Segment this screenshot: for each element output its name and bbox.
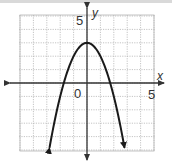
coordinate-plane: 0 5 5 x y	[0, 0, 172, 164]
x-max-label: 5	[148, 87, 155, 102]
x-axis-label: x	[156, 69, 164, 83]
y-max-label: 5	[76, 13, 83, 28]
axes	[10, 8, 164, 160]
y-axis-label: y	[91, 6, 99, 20]
origin-label: 0	[74, 86, 81, 101]
